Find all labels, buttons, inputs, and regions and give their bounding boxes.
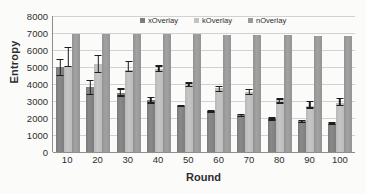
bar-rect	[163, 34, 171, 152]
bar-noverlay-round-70	[253, 16, 261, 152]
error-bar-cap-top	[87, 80, 94, 81]
bar-koverlay-round-40	[155, 16, 163, 152]
error-bar-cap-top	[185, 82, 192, 83]
bar-rect	[64, 66, 72, 152]
error-bar-stem	[67, 47, 68, 68]
error-bar-cap-bottom	[95, 72, 102, 73]
error-bar-stem	[59, 59, 60, 77]
bar-group	[144, 16, 174, 152]
bar-noverlay-round-100	[344, 16, 352, 152]
error-bar-cap-bottom	[306, 107, 313, 108]
bar-xoverlay-round-50	[177, 16, 185, 152]
bar-noverlay-round-60	[223, 16, 231, 152]
bar-noverlay-round-80	[284, 16, 292, 152]
y-axis-tick: 1000	[14, 130, 48, 141]
x-axis-tick: 60	[203, 154, 233, 168]
bar-group	[83, 16, 113, 152]
y-axis-tick: 3000	[14, 96, 48, 107]
bar-koverlay-round-20	[94, 16, 102, 152]
bar-noverlay-round-90	[314, 16, 322, 152]
bar-rect	[336, 103, 344, 152]
bar-xoverlay-round-10	[56, 16, 64, 152]
error-bar	[95, 55, 102, 73]
bar-koverlay-round-100	[336, 16, 344, 152]
error-bar-cap-bottom	[328, 124, 335, 125]
bar-rect	[344, 36, 352, 152]
bar-xoverlay-round-80	[268, 16, 276, 152]
error-bar-cap-bottom	[336, 105, 343, 106]
bar-rect	[253, 35, 261, 152]
error-bar-cap-bottom	[177, 106, 184, 107]
error-bar	[216, 86, 223, 93]
x-axis-tick: 50	[173, 154, 203, 168]
error-bar-cap-bottom	[125, 71, 132, 72]
x-axis-tick: 90	[294, 154, 324, 168]
legend-swatch-icon	[248, 18, 253, 23]
error-bar-cap-bottom	[298, 122, 305, 123]
legend-swatch-icon	[194, 18, 199, 23]
error-bar	[208, 110, 215, 113]
bar-rect	[133, 34, 141, 152]
error-bar-cap-bottom	[238, 116, 245, 117]
x-axis-tick: 30	[113, 154, 143, 168]
bar-group	[53, 16, 83, 152]
error-bar	[238, 114, 245, 117]
error-bar-cap-bottom	[57, 75, 64, 76]
y-axis-tick-labels: 800070006000500040003000200010000	[14, 0, 48, 194]
bar-rect	[268, 119, 276, 152]
y-axis-tick: 8000	[14, 11, 48, 22]
bar-rect	[94, 64, 102, 152]
legend-item-koverlay[interactable]: kOverlay	[194, 16, 232, 25]
y-axis-tick: 6000	[14, 45, 48, 56]
error-bar-cap-bottom	[216, 91, 223, 92]
plot-area	[52, 16, 355, 152]
error-bar-cap-top	[125, 61, 132, 62]
bar-group	[325, 16, 355, 152]
x-axis-tick: 70	[234, 154, 264, 168]
legend-label: nOverlay	[256, 16, 286, 25]
error-bar-cap-top	[306, 101, 313, 102]
error-bar	[125, 61, 132, 72]
bar-rect	[223, 35, 231, 152]
bar-xoverlay-round-90	[298, 16, 306, 152]
bar-noverlay-round-40	[163, 16, 171, 152]
bar-noverlay-round-30	[133, 16, 141, 152]
bar-group	[174, 16, 204, 152]
y-axis-tick: 2000	[14, 113, 48, 124]
bar-rect	[193, 34, 201, 152]
legend-item-noverlay[interactable]: nOverlay	[248, 16, 286, 25]
bar-rect	[72, 34, 80, 152]
bar-koverlay-round-90	[306, 16, 314, 152]
error-bar	[246, 89, 253, 95]
error-bar	[155, 65, 162, 72]
bar-koverlay-round-60	[215, 16, 223, 152]
bar-xoverlay-round-20	[86, 16, 94, 152]
error-bar-cap-bottom	[185, 86, 192, 87]
chart-legend: xOverlaykOverlaynOverlay	[140, 16, 286, 25]
bar-rect	[147, 100, 155, 152]
error-bar	[57, 59, 64, 77]
bar-koverlay-round-10	[64, 16, 72, 152]
error-bar	[276, 98, 283, 103]
bar-rect	[102, 34, 110, 152]
error-bar-cap-top	[216, 86, 223, 87]
error-bar	[65, 47, 72, 68]
legend-item-xoverlay[interactable]: xOverlay	[140, 16, 178, 25]
bar-koverlay-round-80	[276, 16, 284, 152]
bar-koverlay-round-50	[185, 16, 193, 152]
error-bar-cap-top	[57, 59, 64, 60]
bar-rect	[298, 121, 306, 152]
error-bar-cap-bottom	[65, 66, 72, 67]
x-axis-tick: 40	[143, 154, 173, 168]
gridline	[53, 152, 355, 153]
x-axis-tick-labels: 102030405060708090100	[52, 154, 355, 168]
error-bar-cap-top	[268, 117, 275, 118]
y-axis-tick: 0	[14, 147, 48, 158]
error-bar-cap-bottom	[268, 119, 275, 120]
bar-rect	[185, 84, 193, 152]
error-bar-cap-top	[95, 55, 102, 56]
bar-xoverlay-round-100	[328, 16, 336, 152]
bar-rect	[237, 115, 245, 152]
bar-rect	[328, 124, 336, 152]
error-bar	[328, 122, 335, 125]
